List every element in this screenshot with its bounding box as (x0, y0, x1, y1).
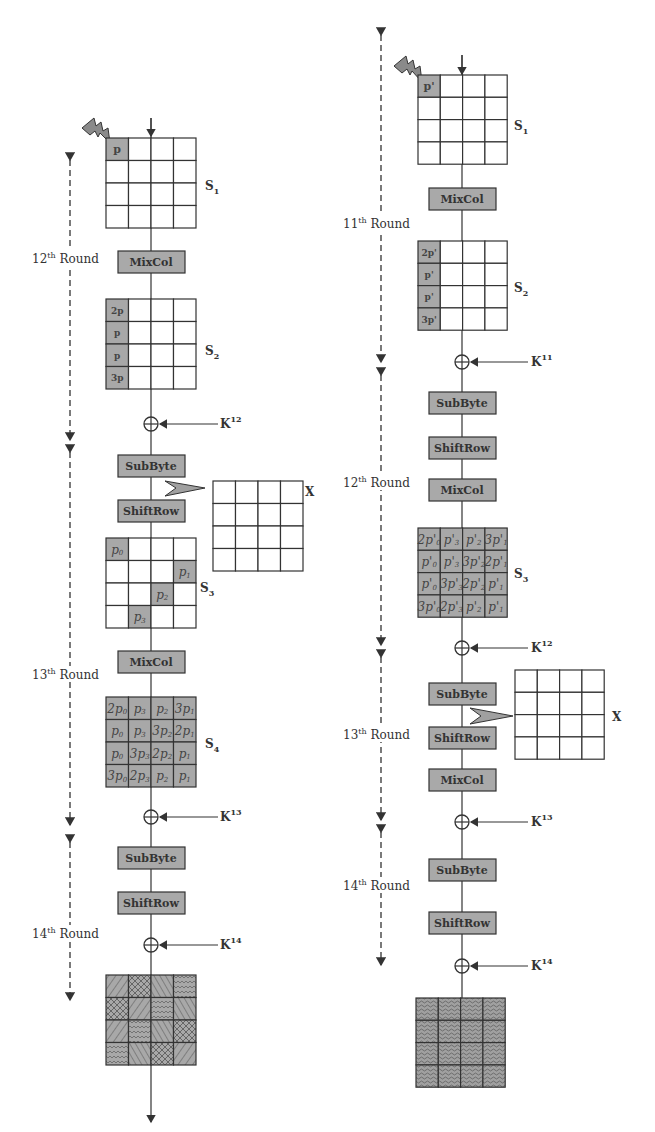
svg-text:MixCol: MixCol (129, 656, 172, 669)
grid-cell (463, 241, 485, 263)
svg-text:MixCol: MixCol (440, 774, 483, 787)
cell-value: 2p' (421, 248, 436, 258)
grid-cell (106, 161, 129, 184)
grid-cell (418, 120, 440, 142)
grid-cell (485, 286, 507, 308)
grid-cell (582, 715, 604, 737)
grid-cell (151, 1020, 174, 1043)
round-13-left-span: 13th Round (28, 452, 112, 825)
shiftrow-op-right-3: ShiftRow (429, 912, 496, 934)
grid-cell (560, 715, 582, 737)
grid-cell (174, 206, 197, 229)
svg-text:ShiftRow: ShiftRow (123, 897, 179, 910)
svg-text:MixCol: MixCol (440, 193, 483, 206)
svg-text:SubByte: SubByte (436, 397, 487, 410)
grid-cell (213, 549, 236, 572)
grid-cell (106, 998, 129, 1021)
round-12-right-span: 12th Round (340, 375, 424, 645)
grid-cell (151, 299, 174, 322)
grid-cell (236, 549, 259, 572)
svg-text:13th Round: 13th Round (32, 667, 99, 682)
grid-cell (485, 263, 507, 285)
xor-k11-right: K11 (455, 352, 553, 369)
grid-cell (151, 561, 174, 584)
svg-text:SubByte: SubByte (125, 852, 176, 865)
xor-k14-left: K14 (144, 935, 242, 952)
subbyte-op-right-1: SubByte (429, 392, 496, 414)
grid-cell (174, 183, 197, 206)
cell-value: p (114, 351, 120, 361)
grid-cell (258, 526, 281, 549)
grid-cell (129, 299, 152, 322)
grid-cell (129, 561, 152, 584)
svg-text:12th Round: 12th Round (343, 475, 410, 490)
grid-cell (485, 75, 507, 97)
grid-cell (236, 526, 259, 549)
grid-cell (281, 526, 304, 549)
subbyte-op-left-2: SubByte (118, 847, 185, 869)
aes-fault-diagram: 12th Round 13th Round 14th Round p S1 Mi… (0, 0, 655, 1132)
grid-cell (174, 322, 197, 345)
svg-text:p: p (113, 143, 121, 156)
shiftrow-op-left-1: ShiftRow (118, 500, 185, 522)
grid-cell (129, 367, 152, 390)
grid-cell (151, 322, 174, 345)
svg-text:11th Round: 11th Round (343, 216, 410, 231)
grid-cell (129, 183, 152, 206)
subbyte-op-left-1: SubByte (118, 455, 185, 477)
grid-cell (560, 692, 582, 714)
grid-cell (418, 97, 440, 119)
grid-cell (174, 299, 197, 322)
grid-cell (129, 161, 152, 184)
grid-cell (463, 308, 485, 330)
grid-cell (515, 737, 537, 759)
fault-arrow-icon (165, 481, 205, 496)
grid-cell (174, 1043, 197, 1066)
grid-cell (129, 583, 152, 606)
grid-cell (174, 975, 197, 998)
grid-cell (463, 142, 485, 164)
cell-value: p (114, 328, 120, 338)
grid-cell (258, 504, 281, 527)
grid-cell (416, 1020, 438, 1042)
cell-value: 2p (111, 306, 124, 316)
svg-text:14th Round: 14th Round (32, 926, 99, 941)
mixcol-op-left-1: MixCol (118, 251, 185, 273)
grid-cell (106, 561, 129, 584)
subbyte-op-right-2: SubByte (429, 683, 496, 705)
grid-cell (174, 344, 197, 367)
mixcol-op-right-3: MixCol (429, 769, 496, 791)
grid-cell (106, 206, 129, 229)
grid-cell (129, 998, 152, 1021)
grid-cell (463, 263, 485, 285)
grid-cell (174, 583, 197, 606)
grid-cell (129, 538, 152, 561)
grid-cell (440, 241, 462, 263)
grid-cell (485, 97, 507, 119)
subbyte-op-right-3: SubByte (429, 859, 496, 881)
round-12-left-span: 12th Round (28, 160, 112, 440)
grid-cell (461, 998, 483, 1020)
grid-cell (151, 183, 174, 206)
left-column: 12th Round 13th Round 14th Round p S1 Mi… (28, 118, 315, 1122)
grid-cell (281, 481, 304, 504)
grid-cell (483, 998, 505, 1020)
shiftrow-op-left-2: ShiftRow (118, 892, 185, 914)
grid-cell (151, 975, 174, 998)
grid-cell (461, 1065, 483, 1087)
svg-text:S2: S2 (205, 344, 219, 361)
grid-cell (174, 161, 197, 184)
svg-text:ShiftRow: ShiftRow (123, 505, 179, 518)
grid-cell (440, 263, 462, 285)
grid-cell (258, 481, 281, 504)
shiftrow-op-right-2: ShiftRow (429, 727, 496, 749)
grid-cell (463, 97, 485, 119)
state-s4-left: 2p0p3p23p1p0p33p22p1p03p32p2p13p02p3p2p1… (106, 697, 220, 787)
grid-cell (485, 142, 507, 164)
svg-text:K12: K12 (220, 414, 242, 431)
grid-cell (213, 526, 236, 549)
grid-cell (174, 606, 197, 629)
grid-cell (106, 1043, 129, 1066)
svg-text:MixCol: MixCol (129, 256, 172, 269)
xor-k12-left: K12 (144, 414, 242, 431)
